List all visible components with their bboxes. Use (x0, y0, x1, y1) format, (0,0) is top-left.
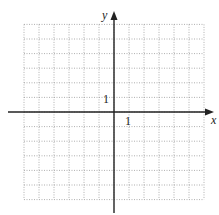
y-unit-label: 1 (103, 92, 109, 106)
y-axis-arrow-icon (111, 11, 118, 20)
coordinate-plane: x y 1 1 (0, 0, 219, 215)
x-unit-label: 1 (125, 114, 131, 128)
y-axis-label: y (101, 8, 108, 22)
x-axis-label: x (210, 113, 217, 127)
